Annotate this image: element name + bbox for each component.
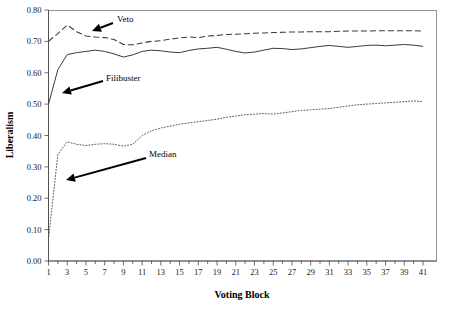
y-tick-label: 0.60 (27, 68, 42, 78)
x-tick-label: 37 (381, 267, 390, 277)
x-axis-title: Voting Block (215, 289, 270, 300)
x-tick-label: 39 (400, 267, 409, 277)
y-axis-title: Liberalism (4, 111, 15, 158)
x-tick-label: 33 (344, 267, 353, 277)
x-tick-label: 9 (121, 267, 125, 277)
x-tick-label: 19 (213, 267, 222, 277)
x-tick-label: 5 (84, 267, 88, 277)
median-label: Median (149, 149, 177, 159)
x-tick-label: 31 (325, 267, 334, 277)
x-tick-label: 13 (157, 267, 166, 277)
x-tick-label: 21 (232, 267, 241, 277)
x-tick-label: 7 (103, 267, 107, 277)
filibuster-label: Filibuster (106, 73, 141, 83)
y-tick-label: 0.80 (27, 5, 42, 15)
x-tick-label: 29 (306, 267, 315, 277)
y-tick-label: 0.00 (27, 256, 42, 266)
x-tick-label: 25 (269, 267, 278, 277)
x-tick-label: 41 (419, 267, 428, 277)
y-tick-label: 0.20 (27, 193, 42, 203)
x-tick-label: 3 (65, 267, 69, 277)
x-tick-label: 15 (175, 267, 184, 277)
y-tick-label: 0.10 (27, 225, 42, 235)
y-tick-label: 0.40 (27, 131, 42, 141)
veto-label: Veto (117, 14, 134, 24)
x-tick-label: 1 (46, 267, 50, 277)
x-tick-label: 11 (138, 267, 146, 277)
x-tick-label: 35 (363, 267, 372, 277)
x-tick-label: 23 (250, 267, 259, 277)
chart-container: 0.000.100.200.300.400.500.600.700.80 135… (0, 0, 454, 309)
y-tick-label: 0.30 (27, 162, 42, 172)
y-tick-label: 0.50 (27, 99, 42, 109)
x-tick-label: 17 (194, 267, 203, 277)
liberalism-by-voting-block-chart: 0.000.100.200.300.400.500.600.700.80 135… (0, 0, 454, 309)
y-tick-label: 0.70 (27, 36, 42, 46)
x-tick-label: 27 (288, 267, 297, 277)
